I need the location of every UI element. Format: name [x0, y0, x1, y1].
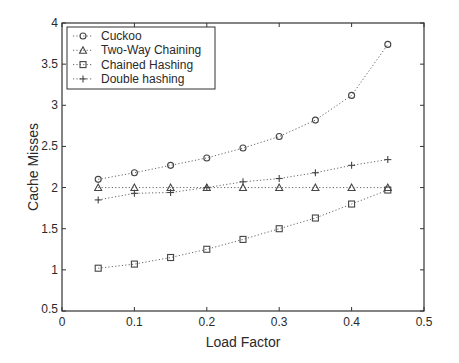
x-axis-label: Load Factor	[206, 334, 281, 350]
y-tick-label: 2	[51, 181, 58, 195]
legend-label: Double hashing	[101, 72, 184, 86]
x-tick-label: 0	[59, 315, 66, 329]
legend: CuckooTwo-Way ChainingChained HashingDou…	[67, 27, 215, 89]
legend-label: Chained Hashing	[101, 58, 193, 72]
y-tick-label: 3	[51, 98, 58, 112]
x-tick-label: 0.2	[198, 315, 215, 329]
x-tick-label: 0.5	[416, 315, 433, 329]
x-tick-label: 0.4	[343, 315, 360, 329]
x-tick-label: 0.3	[271, 315, 288, 329]
y-tick-label: 3.5	[41, 57, 58, 71]
y-tick-label: 1	[51, 263, 58, 277]
line-chart: 00.10.20.30.40.50.511.522.533.54 Load Fa…	[0, 0, 459, 363]
x-tick-label: 0.1	[126, 315, 143, 329]
legend-label: Two-Way Chaining	[101, 43, 201, 57]
legend-label: Cuckoo	[101, 29, 142, 43]
y-axis-label: Cache Misses	[25, 123, 41, 211]
y-tick-label: 2.5	[41, 139, 58, 153]
y-tick-label: 0.5	[41, 302, 58, 316]
y-tick-label: 4	[51, 16, 58, 30]
y-tick-label: 1.5	[41, 222, 58, 236]
